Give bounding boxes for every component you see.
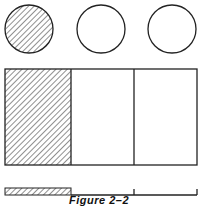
shaded-circle: [5, 5, 53, 53]
empty-circle: [77, 5, 125, 53]
divided-rectangle: [5, 69, 197, 165]
shaded-rect-part: [5, 69, 71, 165]
fraction-diagram: [0, 0, 198, 207]
figure-caption: Figure 2–2: [0, 194, 198, 206]
empty-circle: [148, 5, 196, 53]
circle-set: [5, 5, 196, 53]
